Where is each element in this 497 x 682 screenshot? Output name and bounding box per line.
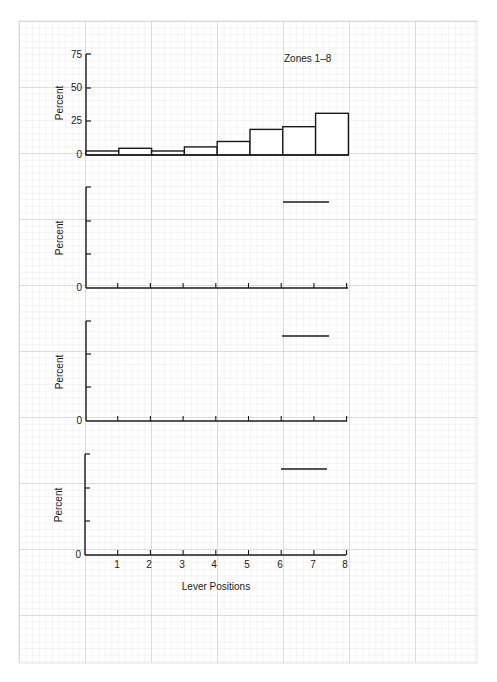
- panel-2-y-label: Percent: [54, 221, 65, 256]
- panel-4-y-label: Percent: [53, 488, 64, 523]
- x-tick-label-4: 4: [211, 559, 217, 570]
- histogram-bar-7: [283, 127, 316, 155]
- histogram-bar-5: [217, 142, 250, 156]
- x-tick-label-1: 1: [114, 559, 120, 570]
- panel-4-y-tick-label-0: 0: [75, 549, 81, 560]
- panel-1-title: Zones 1–8: [284, 53, 332, 64]
- panel-2-y-tick-label-0: 0: [76, 282, 82, 293]
- histogram-bar-4: [184, 147, 217, 155]
- histogram-bar-6: [250, 129, 283, 155]
- x-axis-label: Lever Positions: [182, 581, 250, 592]
- histogram-bar-2: [119, 148, 152, 155]
- x-tick-label-7: 7: [310, 559, 316, 570]
- panel-1-y-label: Percent: [54, 86, 65, 121]
- x-tick-label-6: 6: [277, 559, 283, 570]
- panel-3-y-label: Percent: [54, 355, 65, 390]
- x-tick-label-8: 8: [342, 559, 348, 570]
- histogram-bar-8: [316, 113, 349, 155]
- panel-3-y-tick-label-0: 0: [76, 415, 82, 426]
- x-tick-label-3: 3: [179, 559, 185, 570]
- x-tick-label-5: 5: [244, 559, 250, 570]
- y-tick-label-50: 50: [71, 82, 83, 93]
- x-tick-label-2: 2: [146, 559, 152, 570]
- y-tick-label-25: 25: [71, 115, 83, 126]
- graph-paper-sheet: Zones 1–8 75 50 25 0 Percent 0 Percent: [0, 0, 497, 682]
- y-tick-label-75: 75: [71, 49, 83, 60]
- y-tick-label-0: 0: [76, 149, 82, 160]
